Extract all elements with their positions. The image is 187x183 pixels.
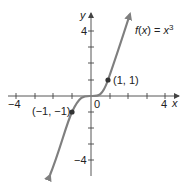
x-tick-label-neg4: −4: [8, 99, 21, 110]
y-tick-label-neg4: −4: [74, 155, 87, 166]
point-1-1: [105, 77, 110, 82]
x-tick-label-0: 0: [94, 99, 100, 110]
function-label: f(x) = x3: [135, 24, 173, 36]
y-tick-label-4: 4: [81, 26, 87, 37]
function-exponent: 3: [169, 23, 173, 32]
x-tick-label-4: 4: [161, 99, 167, 110]
cubic-curve: [50, 14, 130, 175]
point-label-1-1: (1, 1): [113, 75, 139, 86]
point-label-neg1-neg1: (−1, −1): [32, 106, 71, 117]
y-axis-label: y: [80, 10, 86, 21]
x-axis-label: x: [172, 98, 178, 109]
